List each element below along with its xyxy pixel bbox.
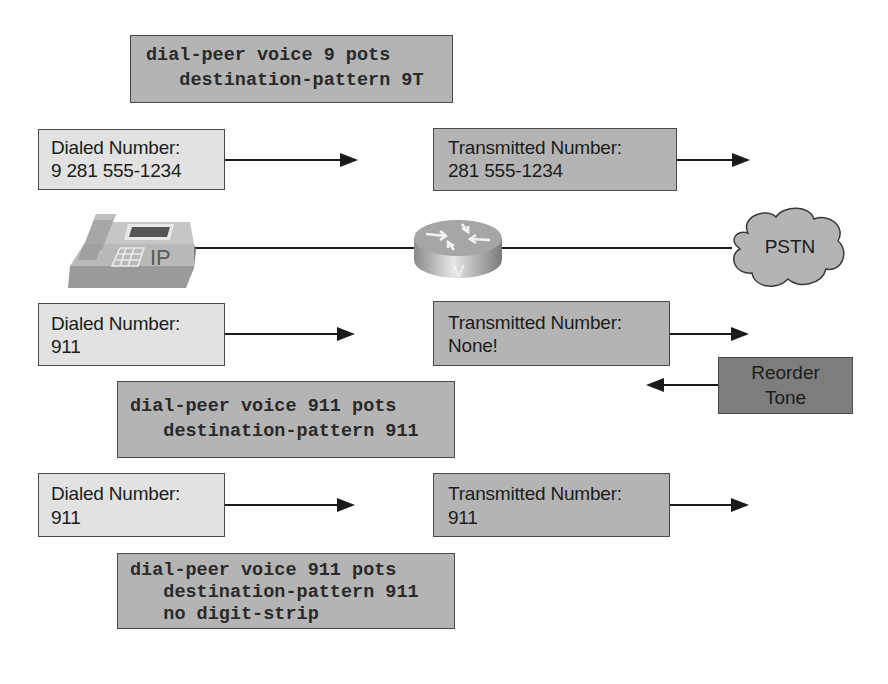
reorder-tone-box: Reorder Tone	[718, 357, 853, 414]
dialed-number-box-3: Dialed Number: 911	[38, 473, 225, 537]
transmitted-number-box-2: Transmitted Number: None!	[433, 301, 670, 366]
arrow-right-icon	[337, 327, 355, 341]
arrow-left-icon	[646, 378, 664, 392]
arrow-reorder-line	[663, 384, 718, 386]
dialed-number-value: 911	[51, 506, 81, 530]
arrow-dialed-2-line	[225, 333, 338, 335]
transmitted-number-title: Transmitted Number:	[448, 136, 622, 160]
reorder-tone-line1: Reorder	[719, 360, 852, 386]
transmitted-number-title: Transmitted Number:	[448, 311, 622, 335]
config-line-2: destination-pattern 911	[130, 420, 419, 444]
reorder-tone-line2: Tone	[719, 385, 852, 411]
ip-phone-icon: IP	[66, 210, 198, 290]
voice-router-icon: V	[410, 214, 506, 284]
transmitted-number-box-3: Transmitted Number: 911	[433, 473, 670, 537]
arrow-right-icon	[732, 153, 750, 167]
config-line-1: dial-peer voice 9 pots	[146, 44, 390, 68]
arrow-right-icon	[340, 153, 358, 167]
transmitted-number-value: 281 555-1234	[448, 159, 563, 183]
pstn-label: PSTN	[755, 234, 825, 260]
config-line-1: dial-peer voice 911 pots	[130, 559, 396, 583]
arrow-dialed-3-line	[225, 504, 338, 506]
dialed-number-box-1: Dialed Number: 9 281 555-1234	[38, 129, 225, 190]
dialed-number-value: 9 281 555-1234	[51, 159, 181, 183]
arrow-right-icon	[731, 327, 749, 341]
dialed-number-value: 911	[51, 335, 81, 359]
arrow-right-icon	[731, 498, 749, 512]
arrow-right-icon	[337, 498, 355, 512]
config-line-2: destination-pattern 911	[130, 581, 419, 605]
arrow-transmitted-1-line	[677, 159, 733, 161]
dialed-number-title: Dialed Number:	[51, 482, 180, 506]
dialed-number-box-2: Dialed Number: 911	[38, 303, 225, 366]
config-line-3: no digit-strip	[130, 603, 319, 627]
dialed-number-title: Dialed Number:	[51, 312, 180, 336]
arrow-transmitted-2-line	[670, 333, 732, 335]
svg-text:V: V	[453, 262, 465, 281]
config-box-911: dial-peer voice 911 pots destination-pat…	[117, 381, 455, 458]
transmitted-number-box-1: Transmitted Number: 281 555-1234	[433, 128, 677, 191]
link-router-pstn	[500, 247, 732, 249]
transmitted-number-value: None!	[448, 334, 498, 358]
config-box-911-no-digit-strip: dial-peer voice 911 pots destination-pat…	[117, 553, 455, 629]
transmitted-number-title: Transmitted Number:	[448, 482, 622, 506]
dialed-number-title: Dialed Number:	[51, 136, 180, 160]
config-line-2: destination-pattern 9T	[146, 69, 424, 93]
config-box-9t: dial-peer voice 9 pots destination-patte…	[130, 35, 453, 103]
config-line-1: dial-peer voice 911 pots	[130, 395, 396, 419]
svg-text:IP: IP	[150, 245, 171, 270]
link-phone-router	[192, 247, 416, 249]
arrow-dialed-1-line	[225, 159, 341, 161]
arrow-transmitted-3-line	[670, 504, 732, 506]
transmitted-number-value: 911	[448, 506, 478, 530]
